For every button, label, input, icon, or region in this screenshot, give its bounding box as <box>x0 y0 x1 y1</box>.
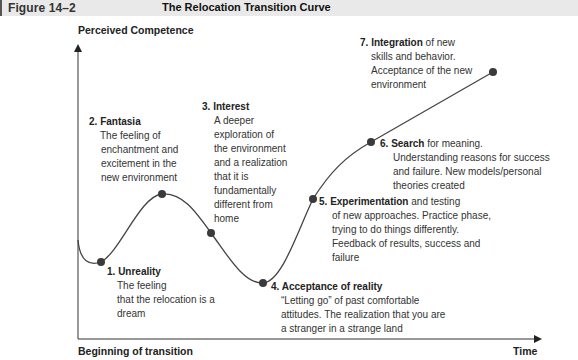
stage-1-annotation: 1. Unreality The feeling that the reloca… <box>107 265 215 321</box>
stage-3-title: 3. Interest <box>202 101 249 112</box>
stage-7-line: environment <box>360 78 472 92</box>
stage-2-line: The feeling of <box>89 129 178 143</box>
stage-3-line: fundamentally <box>202 184 287 198</box>
stage-1-line: that the relocation is a <box>107 293 215 307</box>
stage-7-title: 7. Integration of new <box>360 37 455 48</box>
stage-6-line: theories created <box>380 179 550 193</box>
stage-7-marker <box>489 68 497 76</box>
stage-3-line: exploration of <box>202 128 287 142</box>
stage-2-marker <box>158 190 166 198</box>
stage-2-line: enchantment and <box>89 143 178 157</box>
stage-3-line: different from <box>202 198 287 212</box>
stage-6-line: and failure. New models/personal <box>380 165 550 179</box>
stage-5-marker <box>309 195 317 203</box>
stage-3-annotation: 3. Interest A deeper exploration of the … <box>202 100 287 226</box>
stage-7-line: Acceptance of the new <box>360 64 472 78</box>
stage-7-line: skills and behavior. <box>360 50 472 64</box>
stage-2-line: excitement in the <box>89 157 178 171</box>
stage-4-line: attitudes. The realization that you are <box>271 308 445 322</box>
stage-3-line: home <box>202 212 287 226</box>
stage-4-title: 4. Acceptance of reality <box>271 281 382 292</box>
stage-6-line: Understanding reasons for success <box>380 151 550 165</box>
stage-2-annotation: 2. Fantasia The feeling of enchantment a… <box>89 115 178 185</box>
stage-2-line: new environment <box>89 171 178 185</box>
stage-5-annotation: 5. Experimentation and testing of new ap… <box>319 195 491 265</box>
stage-3-line: A deeper <box>202 114 287 128</box>
stage-4-annotation: 4. Acceptance of reality “Letting go” of… <box>271 280 445 336</box>
stage-4-line: a stranger in a strange land <box>271 322 445 336</box>
stage-6-title: 6. Search for meaning. <box>380 138 483 149</box>
stage-5-line: of new approaches. Practice phase, <box>319 209 491 223</box>
stage-5-line: failure <box>319 251 491 265</box>
stage-4-marker <box>259 279 267 287</box>
stage-5-title: 5. Experimentation and testing <box>319 196 460 207</box>
stage-3-line: that it is <box>202 170 287 184</box>
stage-7-annotation: 7. Integration of new skills and behavio… <box>360 36 472 92</box>
stage-1-title: 1. Unreality <box>107 266 161 277</box>
stage-5-line: Feedback of results, success and <box>319 237 491 251</box>
stage-5-line: trying to do things differently. <box>319 223 491 237</box>
stage-1-marker <box>97 258 105 266</box>
stage-3-line: and a realization <box>202 156 287 170</box>
stage-6-annotation: 6. Search for meaning. Understanding rea… <box>380 137 550 193</box>
stage-1-line: The feeling <box>107 279 215 293</box>
stage-4-line: “Letting go” of past comfortable <box>271 294 445 308</box>
stage-3-marker <box>207 229 215 237</box>
stage-6-marker <box>367 138 375 146</box>
stage-2-title: 2. Fantasia <box>89 116 141 127</box>
stage-1-line: dream <box>107 307 215 321</box>
stage-3-line: the environment <box>202 142 287 156</box>
